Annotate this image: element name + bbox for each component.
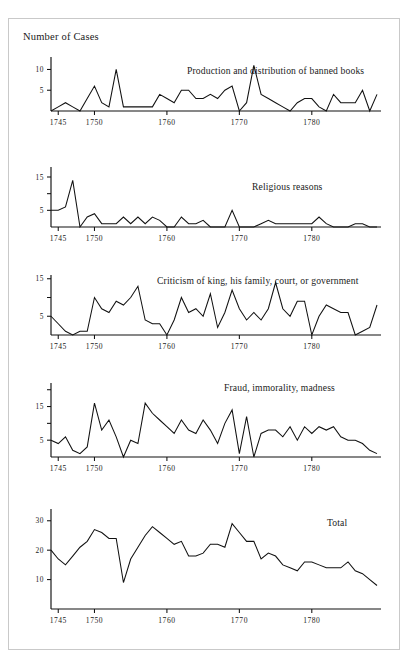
svg-text:1750: 1750: [86, 464, 103, 473]
svg-text:15: 15: [35, 402, 44, 411]
svg-text:5: 5: [40, 206, 44, 215]
chart-fraud: 51517451750176017701780: [9, 377, 401, 489]
svg-text:1770: 1770: [231, 464, 248, 473]
svg-text:1745: 1745: [50, 118, 67, 127]
svg-text:1750: 1750: [86, 118, 103, 127]
svg-text:1770: 1770: [231, 118, 248, 127]
svg-text:1750: 1750: [86, 342, 103, 351]
panel-religious: Religious reasons 5151745175017601770178…: [9, 159, 401, 259]
svg-text:1760: 1760: [158, 234, 175, 243]
panel-label-4: Total: [327, 517, 347, 528]
svg-text:20: 20: [35, 546, 44, 555]
svg-text:5: 5: [40, 312, 44, 321]
svg-text:1760: 1760: [158, 342, 175, 351]
panel-fraud: Fraud, immorality, madness 5151745175017…: [9, 377, 401, 489]
svg-text:1770: 1770: [231, 616, 248, 625]
svg-text:1760: 1760: [158, 464, 175, 473]
panel-label-2: Criticism of king, his family, court, or…: [157, 275, 359, 286]
svg-text:1745: 1745: [50, 464, 67, 473]
svg-text:5: 5: [40, 86, 44, 95]
svg-text:1780: 1780: [303, 464, 320, 473]
svg-text:1760: 1760: [158, 118, 175, 127]
svg-text:1780: 1780: [303, 342, 320, 351]
svg-text:1745: 1745: [50, 234, 67, 243]
svg-text:10: 10: [35, 575, 44, 584]
panel-label-1: Religious reasons: [252, 181, 323, 192]
svg-text:15: 15: [35, 274, 44, 283]
svg-text:1780: 1780: [303, 234, 320, 243]
panel-label-3: Fraud, immorality, madness: [224, 382, 335, 393]
svg-text:15: 15: [35, 173, 44, 182]
svg-text:1760: 1760: [158, 616, 175, 625]
svg-text:5: 5: [40, 436, 44, 445]
svg-text:1780: 1780: [303, 118, 320, 127]
svg-text:1780: 1780: [303, 616, 320, 625]
svg-text:1750: 1750: [86, 234, 103, 243]
top-bleed-text: [0, 0, 408, 16]
svg-text:1770: 1770: [231, 234, 248, 243]
figure-frame: Number of Cases Production and distribut…: [8, 18, 400, 650]
svg-text:1750: 1750: [86, 616, 103, 625]
svg-text:1745: 1745: [50, 616, 67, 625]
svg-text:30: 30: [35, 516, 44, 525]
svg-text:1770: 1770: [231, 342, 248, 351]
chart-banned-books: 51017451750176017701780: [9, 49, 401, 149]
panel-banned-books: Production and distribution of banned bo…: [9, 49, 401, 149]
panel-label-0: Production and distribution of banned bo…: [187, 65, 364, 76]
svg-text:10: 10: [35, 65, 44, 74]
y-axis-title: Number of Cases: [23, 31, 99, 42]
chart-religious: 51517451750176017701780: [9, 159, 401, 259]
svg-text:1745: 1745: [50, 342, 67, 351]
panel-total: Total 10203017451750176017701780: [9, 499, 401, 641]
panel-criticism: Criticism of king, his family, court, or…: [9, 269, 401, 369]
